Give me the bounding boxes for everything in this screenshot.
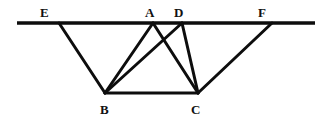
geometry-figure: E A D F B C <box>0 0 326 124</box>
vertex-label-B: B <box>100 103 109 116</box>
vertex-label-D: D <box>174 6 183 19</box>
figure-background <box>0 0 326 124</box>
vertex-label-E: E <box>40 6 49 19</box>
figure-canvas <box>0 0 326 124</box>
vertex-label-A: A <box>145 6 154 19</box>
vertex-label-F: F <box>258 6 266 19</box>
vertex-label-C: C <box>191 103 200 116</box>
